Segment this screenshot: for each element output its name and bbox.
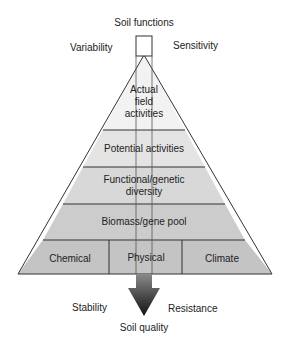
corner-bottom-left: Stability — [72, 302, 107, 314]
down-arrow-icon — [128, 274, 160, 316]
tier-label-potential: Potential activities — [94, 143, 194, 155]
tier-label-biomass: Biomass/gene pool — [84, 216, 204, 228]
top-label: Soil functions — [104, 17, 184, 29]
cell-chemical: Chemical — [40, 253, 100, 265]
bottom-label: Soil quality — [104, 322, 184, 334]
cell-climate: Climate — [192, 253, 252, 265]
tier-label-functional: Functional/genetic diversity — [84, 174, 204, 198]
tier-label-actual: Actual field activities — [114, 84, 174, 120]
corner-bottom-right: Resistance — [168, 303, 217, 315]
cell-physical: Physical — [116, 252, 176, 264]
flow-column — [136, 36, 152, 56]
corner-top-right: Sensitivity — [173, 40, 218, 52]
corner-top-left: Variability — [70, 42, 113, 54]
